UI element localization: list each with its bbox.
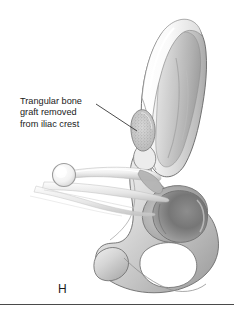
annotation-label: Trangular bone graft removed from iliac … xyxy=(20,96,82,130)
figure-panel: Trangular bone graft removed from iliac … xyxy=(0,0,234,317)
panel-letter: H xyxy=(58,282,67,296)
iliac-crest-bone-graft-illustration xyxy=(0,0,234,317)
hemipelvis-bone xyxy=(94,19,219,293)
annotation-line-2: graft removed xyxy=(20,107,82,118)
obturator-foramen xyxy=(140,243,197,288)
annotation-line-1: Trangular bone xyxy=(20,96,82,107)
annotation-leader-line xyxy=(96,104,137,131)
graft-donor-site xyxy=(131,110,155,151)
figure-bottom-rule xyxy=(0,304,234,305)
annotation-line-3: from iliac crest xyxy=(20,119,82,130)
